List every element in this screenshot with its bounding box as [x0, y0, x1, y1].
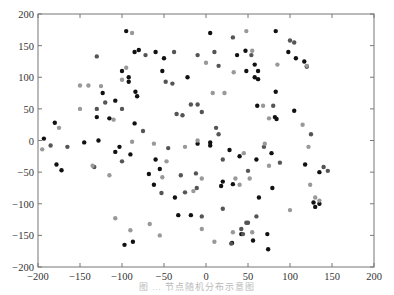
data-point-light-gray [288, 208, 292, 212]
data-point-light-gray [275, 62, 279, 66]
data-point-light-gray [111, 117, 115, 121]
data-point-black [135, 94, 139, 98]
data-point-dark-gray [183, 190, 187, 194]
data-point-black [132, 121, 136, 125]
data-point-dark-gray [271, 104, 275, 108]
data-point-light-gray [195, 138, 199, 142]
data-point-black [113, 98, 117, 102]
data-point-black [128, 152, 132, 156]
data-point-light-gray [99, 84, 103, 88]
scatter-chart: −200−150−100−50050100150200 −200−150−100… [0, 0, 394, 295]
data-point-dark-gray [326, 169, 330, 173]
data-point-light-gray [267, 116, 271, 120]
data-point-dark-gray [221, 157, 225, 161]
data-point-dark-gray [180, 113, 184, 117]
data-point-dark-gray [65, 145, 69, 149]
data-point-dark-gray [174, 112, 178, 116]
data-point-black [127, 75, 131, 79]
data-point-black [274, 117, 278, 121]
data-point-dark-gray [166, 146, 170, 150]
data-point-black [107, 116, 111, 120]
data-point-dark-gray [163, 79, 167, 83]
data-point-black [302, 59, 306, 63]
data-point-dark-gray [95, 54, 99, 58]
data-point-black [147, 172, 151, 176]
data-point-black [257, 195, 261, 199]
data-point-light-gray [57, 126, 61, 130]
data-point-light-gray [244, 29, 248, 33]
data-point-light-gray [160, 175, 164, 179]
data-point-black [311, 200, 315, 204]
data-point-dark-gray [159, 191, 163, 195]
data-point-dark-gray [249, 53, 253, 57]
data-point-black [173, 195, 177, 199]
data-point-black [82, 140, 86, 144]
data-point-black [185, 75, 189, 79]
data-point-light-gray [267, 164, 271, 168]
y-axis-tick-labels: −200−150−100−50050100150200 [12, 9, 34, 273]
data-point-light-gray [211, 91, 215, 95]
data-point-light-gray [306, 145, 310, 149]
data-point-light-gray [158, 233, 162, 237]
data-point-black [266, 247, 270, 251]
data-point-light-gray [250, 48, 254, 52]
data-point-black [256, 69, 260, 73]
data-point-black [53, 121, 57, 125]
data-point-black [122, 243, 126, 247]
data-point-light-gray [40, 147, 44, 151]
data-point-light-gray [191, 189, 195, 193]
data-point-dark-gray [195, 186, 199, 190]
data-point-dark-gray [172, 50, 176, 54]
data-point-light-gray [86, 83, 90, 87]
data-point-black [269, 151, 273, 155]
y-tick-label: 150 [18, 41, 34, 52]
data-point-light-gray [212, 240, 216, 244]
y-tick-label: −50 [18, 167, 34, 178]
data-point-dark-gray [241, 232, 245, 236]
data-point-black [42, 136, 46, 140]
data-point-black [96, 138, 100, 142]
data-point-black [251, 238, 255, 242]
data-point-dark-gray [321, 165, 325, 169]
data-point-light-gray [261, 104, 265, 108]
data-point-dark-gray [200, 110, 204, 114]
data-point-black [124, 29, 128, 33]
y-tick-label: −150 [12, 230, 34, 241]
data-point-dark-gray [141, 129, 145, 133]
data-point-black [313, 205, 317, 209]
data-point-black [132, 50, 136, 54]
data-point-dark-gray [170, 81, 174, 85]
data-point-light-gray [90, 164, 94, 168]
data-point-light-gray [233, 176, 237, 180]
data-point-black [219, 184, 223, 188]
y-tick-label: 50 [24, 104, 35, 115]
data-point-black [253, 62, 257, 66]
data-point-dark-gray [216, 64, 220, 68]
data-point-dark-gray [195, 102, 199, 106]
data-point-dark-gray [194, 171, 198, 175]
data-point-light-gray [237, 183, 241, 187]
data-point-dark-gray [195, 53, 199, 57]
data-point-black [153, 50, 157, 54]
data-point-dark-gray [95, 107, 99, 111]
data-point-light-gray [250, 230, 254, 234]
data-point-black [54, 162, 58, 166]
data-point-dark-gray [200, 214, 204, 218]
data-point-light-gray [120, 78, 124, 82]
data-point-black [162, 56, 166, 60]
data-point-black [254, 157, 258, 161]
data-point-dark-gray [239, 227, 243, 231]
data-point-light-gray [152, 141, 156, 145]
data-point-dark-gray [246, 169, 250, 173]
data-point-black [153, 157, 157, 161]
data-point-dark-gray [214, 126, 218, 130]
data-point-light-gray [308, 183, 312, 187]
y-tick-label: −200 [12, 262, 34, 273]
data-point-black [237, 154, 241, 158]
y-tick-label: 100 [18, 72, 34, 83]
data-point-black [274, 90, 278, 94]
data-point-black [286, 50, 290, 54]
data-point-light-gray [164, 159, 168, 163]
data-point-light-gray [263, 141, 267, 145]
data-point-light-gray [222, 91, 226, 95]
